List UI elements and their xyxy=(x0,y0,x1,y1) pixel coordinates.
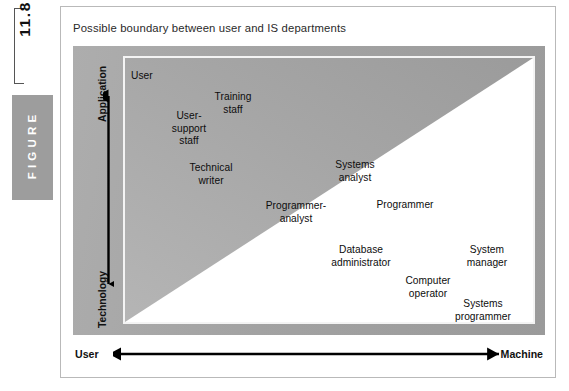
node-label-database-administrator: Database administrator xyxy=(309,244,413,269)
horizontal-axis: User Machine xyxy=(73,343,545,367)
horizontal-double-arrow-icon xyxy=(113,347,507,361)
diagram-panel: Application Technology xyxy=(73,46,545,335)
chart-plot-area: User User- support staff Training staff … xyxy=(123,56,535,324)
figure-caption: Possible boundary between user and IS de… xyxy=(73,22,346,34)
node-label-programmer: Programmer xyxy=(363,199,447,212)
figure-word-label: FIGURE xyxy=(26,93,38,198)
axis-label-machine: Machine xyxy=(501,348,543,360)
node-label-programmer-analyst: Programmer- analyst xyxy=(247,200,345,225)
node-label-systems-analyst: Systems analyst xyxy=(317,159,393,184)
figure-rail: 11.8 FIGURE xyxy=(0,0,60,391)
node-label-technical-writer: Technical writer xyxy=(169,162,253,187)
node-label-systems-programmer: Systems programmer xyxy=(437,298,529,323)
boundary-diagonal-region xyxy=(125,58,533,322)
figure-frame: Possible boundary between user and IS de… xyxy=(60,6,556,378)
node-label-computer-operator: Computer operator xyxy=(387,275,469,300)
figure-number: 11.8 xyxy=(16,0,34,56)
node-label-training-staff: Training staff xyxy=(195,91,271,116)
axis-label-user: User xyxy=(75,348,99,360)
node-label-user: User xyxy=(131,70,191,83)
node-label-system-manager: System manager xyxy=(449,244,525,269)
figure-word-box: FIGURE xyxy=(12,95,53,200)
vertical-double-arrow-icon xyxy=(103,88,114,292)
figure-number-block: 11.8 xyxy=(14,6,58,88)
